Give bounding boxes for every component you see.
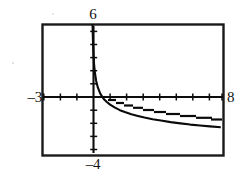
scan-speck-left [12, 62, 14, 64]
scan-speck-top [52, 13, 54, 15]
plot-frame [43, 25, 224, 156]
x-min-label: –3 [14, 90, 42, 105]
y-max-label: 6 [80, 7, 106, 22]
x-max-label: 8 [227, 90, 243, 105]
y-min-label: –4 [78, 157, 108, 172]
graph-figure: 6 –3 8 –4 [0, 0, 244, 179]
